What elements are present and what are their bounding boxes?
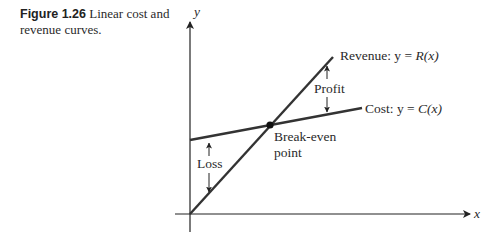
x-axis-label: x bbox=[473, 206, 480, 221]
loss-label: Loss bbox=[197, 156, 223, 171]
cost-revenue-diagram: y x Revenue: y = R(x) Cost: y = C(x) Pro… bbox=[0, 0, 481, 234]
revenue-label-func: R(x) bbox=[414, 48, 439, 63]
break-even-label-line1: Break-even bbox=[274, 129, 336, 144]
revenue-label-prefix: Revenue: y = bbox=[340, 48, 415, 63]
break-even-point bbox=[266, 121, 273, 128]
break-even-label-line2: point bbox=[274, 145, 302, 160]
cost-label: Cost: y = C(x) bbox=[365, 101, 442, 116]
cost-label-func: C(x) bbox=[418, 101, 442, 116]
revenue-label: Revenue: y = R(x) bbox=[340, 48, 439, 63]
profit-label: Profit bbox=[314, 81, 345, 96]
cost-label-prefix: Cost: y = bbox=[365, 101, 418, 116]
y-axis-label: y bbox=[192, 4, 200, 19]
